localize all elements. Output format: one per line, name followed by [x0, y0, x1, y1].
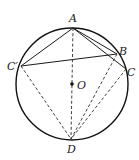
label-b: B — [118, 45, 127, 58]
segment-a-b — [73, 28, 117, 54]
label-o: O — [77, 79, 86, 92]
label-a: A — [68, 12, 77, 25]
label-c-prime: C′ — [7, 60, 18, 73]
label-d: D — [66, 143, 76, 156]
circle-diagram: A B C C′ D O — [0, 0, 139, 160]
center-point-o — [70, 82, 74, 86]
segment-b-d — [71, 54, 117, 139]
segment-cprime-d — [21, 66, 71, 139]
label-c: C — [127, 66, 136, 79]
